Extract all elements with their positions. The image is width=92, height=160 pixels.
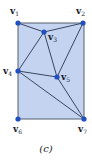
vertex-label-v7: v7 bbox=[77, 124, 87, 135]
triangulation-diagram: v1v2v3v4v5v6v7 (c) bbox=[0, 0, 92, 160]
vertex-v2 bbox=[80, 20, 85, 25]
vertex-label-v2: v2 bbox=[75, 6, 85, 17]
vertex-label-v4: v4 bbox=[2, 66, 12, 77]
vertex-v4 bbox=[15, 68, 20, 73]
vertex-v3 bbox=[41, 29, 46, 34]
vertex-label-v1: v1 bbox=[9, 6, 19, 17]
vertex-v7 bbox=[81, 116, 86, 121]
vertex-v6 bbox=[15, 116, 20, 121]
vertex-label-v6: v6 bbox=[12, 124, 22, 135]
figure-caption: (c) bbox=[39, 143, 53, 154]
vertex-v5 bbox=[54, 74, 59, 79]
vertex-v1 bbox=[15, 20, 20, 25]
